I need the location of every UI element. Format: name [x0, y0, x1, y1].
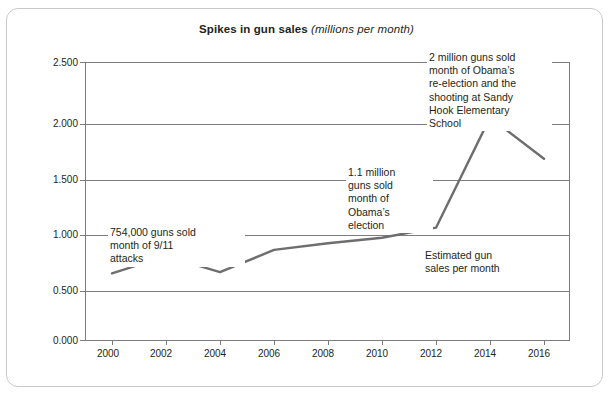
- x-axis-label-2014: 2014: [463, 348, 507, 359]
- annotation-sandy-hook: 2 million guns sold month of Obama’s re-…: [427, 50, 552, 131]
- x-axis-label-2016: 2016: [517, 348, 561, 359]
- y-axis-label-2500: 2.500: [30, 58, 78, 68]
- x-axis-label-2012: 2012: [409, 348, 453, 359]
- page-title: Spikes in gun sales (millions per month): [0, 22, 613, 36]
- chart-page: Spikes in gun sales (millions per month)…: [0, 0, 613, 399]
- y-axis-label-0500: 0.500: [30, 286, 78, 296]
- x-axis-label-2006: 2006: [247, 348, 291, 359]
- x-tick-1: [166, 340, 167, 345]
- x-tick-0: [112, 340, 113, 345]
- x-axis-label-2002: 2002: [139, 348, 183, 359]
- y-axis-label-0000: 0.000: [30, 336, 78, 346]
- x-tick-8: [544, 340, 545, 345]
- chart-title-main: Spikes in gun sales: [199, 23, 311, 35]
- chart-title-subtitle: (millions per month): [311, 23, 414, 35]
- y-axis-label-1000: 1.000: [30, 230, 78, 240]
- x-tick-6: [436, 340, 437, 345]
- annotation-obama-election: 1.1 million guns sold month of Obama’s e…: [346, 165, 433, 233]
- x-tick-2: [220, 340, 221, 345]
- x-tick-3: [274, 340, 275, 345]
- x-tick-7: [490, 340, 491, 345]
- annotation-series-label: Estimated gun sales per month: [423, 248, 538, 276]
- x-tick-4: [328, 340, 329, 345]
- y-axis-label-2000: 2.000: [30, 119, 78, 129]
- x-axis-label-2010: 2010: [355, 348, 399, 359]
- x-tick-5: [382, 340, 383, 345]
- y-tick-0000: [80, 340, 85, 341]
- x-axis-label-2008: 2008: [301, 348, 345, 359]
- x-axis-label-2000: 2000: [86, 348, 130, 359]
- x-axis-label-2004: 2004: [193, 348, 237, 359]
- y-axis-label-1500: 1.500: [30, 175, 78, 185]
- annotation-sep-11: 754,000 guns sold month of 9/11 attacks: [108, 225, 245, 267]
